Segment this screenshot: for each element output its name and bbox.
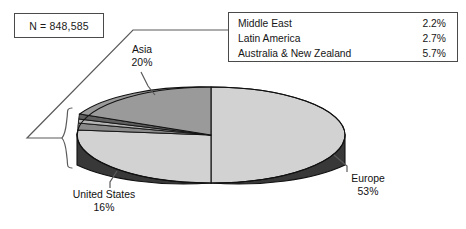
- legend-row: Middle East 2.2%: [238, 16, 448, 31]
- slice-label-united-states-pct: 16%: [57, 202, 151, 215]
- legend-row: Australia & New Zealand 5.7%: [238, 46, 448, 61]
- sample-size-box: N = 848,585: [14, 13, 104, 38]
- slice-label-asia-pct: 20%: [118, 57, 166, 70]
- grouping-bracket: [62, 108, 72, 168]
- legend-row: Latin America 2.7%: [238, 31, 448, 46]
- pie-slice-united-states: [77, 130, 211, 183]
- slice-label-europe-name: Europe: [351, 173, 385, 184]
- slice-label-united-states: United States 16%: [57, 189, 151, 214]
- slice-label-united-states-name: United States: [73, 189, 135, 200]
- legend-value-australia-nz: 5.7%: [423, 46, 448, 61]
- legend-value-middle-east: 2.2%: [423, 16, 448, 31]
- callout-legend-box: Middle East 2.2% Latin America 2.7% Aust…: [228, 12, 458, 62]
- pie-chart-figure: N = 848,585 Middle East 2.2% Latin Ameri…: [0, 0, 466, 229]
- legend-label-latin-america: Latin America: [238, 31, 300, 46]
- slice-label-asia-name: Asia: [132, 44, 152, 55]
- slice-label-europe: Europe 53%: [340, 173, 396, 198]
- legend-label-middle-east: Middle East: [238, 16, 292, 31]
- slice-label-europe-pct: 53%: [340, 186, 396, 199]
- sample-size-text: N = 848,585: [29, 20, 89, 32]
- legend-label-australia-nz: Australia & New Zealand: [238, 46, 351, 61]
- slice-label-asia: Asia 20%: [118, 44, 166, 69]
- pie-3d-body: [77, 87, 345, 184]
- legend-value-latin-america: 2.7%: [423, 31, 448, 46]
